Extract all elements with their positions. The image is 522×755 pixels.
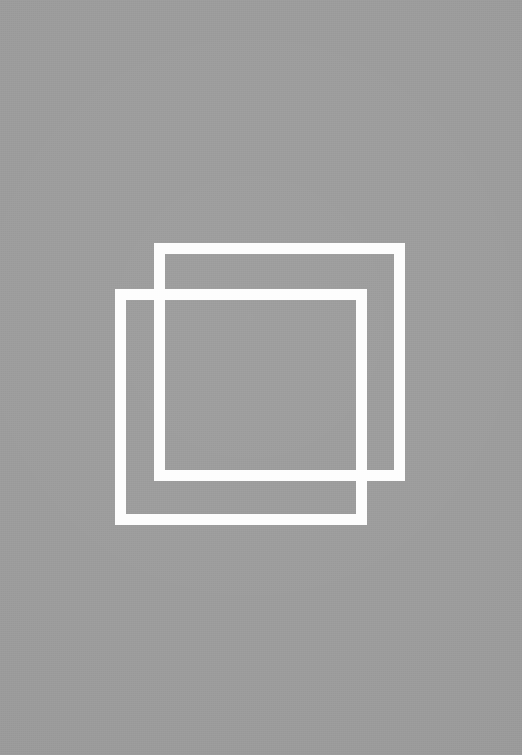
- front-square-outline: [115, 289, 367, 525]
- artwork-canvas: [0, 0, 522, 755]
- shape-layer: [0, 0, 522, 755]
